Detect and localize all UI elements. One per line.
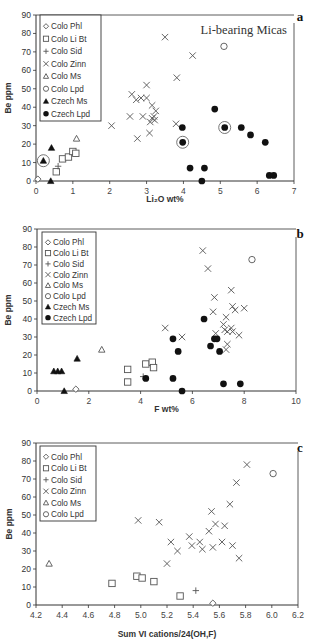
legend-label: Colo Phl (53, 238, 84, 247)
panel-label: a (297, 9, 304, 24)
y-axis-ticks: 0102030405060708090 (23, 224, 37, 396)
y-axis-ticks: 0102030405060708090 (22, 10, 36, 186)
chart-title: Li-bearing Micas (201, 23, 288, 37)
x-axis-label: F wt% (154, 404, 179, 414)
legend-label: Colo Zinn (51, 487, 86, 496)
x-tick-label: 6 (255, 186, 260, 196)
legend-label: Colo Sid (53, 260, 84, 269)
series-czlpd (179, 106, 277, 185)
y-tick-label: 40 (23, 314, 33, 324)
legend-label: Czech Ms (51, 97, 87, 106)
y-tick-label: 20 (22, 139, 32, 149)
y-tick-label: 80 (23, 242, 33, 252)
scatter-plot-c: 01020304050607080904.24.44.64.85.05.25.4… (0, 415, 311, 641)
panel-c: 01020304050607080904.24.44.64.85.05.25.4… (0, 415, 311, 641)
y-tick-label: 30 (22, 546, 32, 556)
x-tick-label: 7 (292, 186, 297, 196)
series-ms (46, 560, 52, 566)
x-tick-label: 2 (86, 396, 91, 406)
legend-label: Colo Ms (51, 72, 81, 81)
y-tick-label: 20 (23, 350, 33, 360)
series-ms (99, 346, 105, 352)
scatter-plot-b: 01020304050607080900246810F wt%Be ppmbCo… (0, 205, 311, 415)
y-tick-label: 10 (23, 368, 33, 378)
y-tick-label: 50 (23, 296, 33, 306)
legend: Colo PhlColo Li BtColo SidColo ZinnColo … (42, 232, 96, 324)
x-tick-label: 5.0 (135, 610, 147, 620)
y-axis-label: Be ppm (4, 508, 14, 540)
x-tick-label: 4.6 (82, 610, 94, 620)
legend: Colo PhlColo Li BtColo SidColo ZinnColo … (40, 15, 101, 121)
series-lpd (249, 256, 255, 262)
x-axis-label: Sum VI cations/24(OH,F) (118, 629, 217, 639)
y-tick-label: 20 (22, 564, 32, 574)
y-tick-label: 50 (22, 84, 32, 94)
series-ms (73, 135, 79, 141)
panel-b: 01020304050607080900246810F wt%Be ppmbCo… (0, 205, 311, 415)
y-axis-label: Be ppm (3, 294, 13, 326)
y-tick-label: 80 (22, 456, 32, 466)
y-tick-label: 0 (26, 176, 31, 186)
x-tick-label: 5.4 (187, 610, 199, 620)
panel-a: 010203040506070809001234567Li₂O wt%Be pp… (0, 0, 311, 205)
x-tick-label: 5.2 (161, 610, 173, 620)
x-tick-label: 10 (291, 396, 301, 406)
x-tick-label: 1 (70, 186, 75, 196)
legend-label: Colo Lpd (53, 292, 86, 301)
series-sid (193, 587, 199, 593)
y-axis-label: Be ppm (3, 82, 13, 114)
legend-label: Czech Lpd (51, 110, 91, 119)
x-tick-label: 5 (218, 186, 223, 196)
y-tick-label: 80 (22, 28, 32, 38)
y-tick-label: 90 (22, 10, 32, 20)
legend-label: Colo Li Bt (51, 35, 87, 44)
legend: Colo PhlColo Li BtColo SidColo ZinnColo … (40, 446, 96, 521)
x-tick-label: 4 (138, 396, 143, 406)
legend-label: Colo Li Bt (53, 249, 89, 258)
y-tick-label: 0 (26, 600, 31, 610)
y-tick-label: 70 (22, 47, 32, 57)
x-tick-label: 6.0 (266, 610, 278, 620)
y-tick-label: 10 (22, 158, 32, 168)
legend-label: Czech Lpd (53, 314, 93, 323)
x-tick-label: 0 (35, 396, 40, 406)
y-axis-ticks: 0102030405060708090 (22, 438, 36, 610)
legend-label: Colo Ms (53, 281, 83, 290)
series-zinn (135, 461, 250, 566)
y-tick-label: 70 (23, 260, 33, 270)
legend-label: Colo Sid (51, 47, 82, 56)
y-tick-label: 50 (22, 510, 32, 520)
panel-label: b (296, 226, 303, 241)
x-axis-label: Li₂O wt% (146, 194, 184, 204)
panel-label: c (297, 440, 303, 455)
y-tick-label: 60 (23, 278, 33, 288)
y-tick-label: 30 (23, 332, 33, 342)
y-tick-label: 10 (22, 582, 32, 592)
y-tick-label: 0 (27, 386, 32, 396)
y-tick-label: 70 (22, 474, 32, 484)
y-tick-label: 90 (22, 438, 32, 448)
x-tick-label: 4.4 (56, 610, 68, 620)
x-axis-ticks: 4.24.44.64.85.05.25.45.65.86.06.2 (30, 605, 304, 620)
y-tick-label: 40 (22, 528, 32, 538)
x-tick-label: 2 (107, 186, 112, 196)
legend-label: Colo Zinn (51, 60, 86, 69)
series-lpd (221, 43, 227, 49)
x-tick-label: 8 (242, 396, 247, 406)
series-czlpd (142, 316, 243, 395)
legend-label: Colo Phl (51, 453, 82, 462)
legend-label: Colo Sid (51, 476, 82, 485)
series-libt (124, 359, 156, 385)
y-tick-label: 60 (22, 65, 32, 75)
y-tick-label: 60 (22, 492, 32, 502)
series-czms (40, 145, 55, 184)
x-tick-label: 5.8 (240, 610, 252, 620)
scatter-plot-a: 010203040506070809001234567Li₂O wt%Be pp… (0, 0, 311, 205)
series-lpd (270, 470, 276, 476)
legend-label: Czech Ms (53, 303, 89, 312)
legend-label: Colo Lpd (51, 85, 84, 94)
series-libt (109, 573, 184, 599)
x-tick-label: 4.8 (109, 610, 121, 620)
legend-label: Colo Zinn (53, 271, 88, 280)
y-tick-label: 40 (22, 102, 32, 112)
